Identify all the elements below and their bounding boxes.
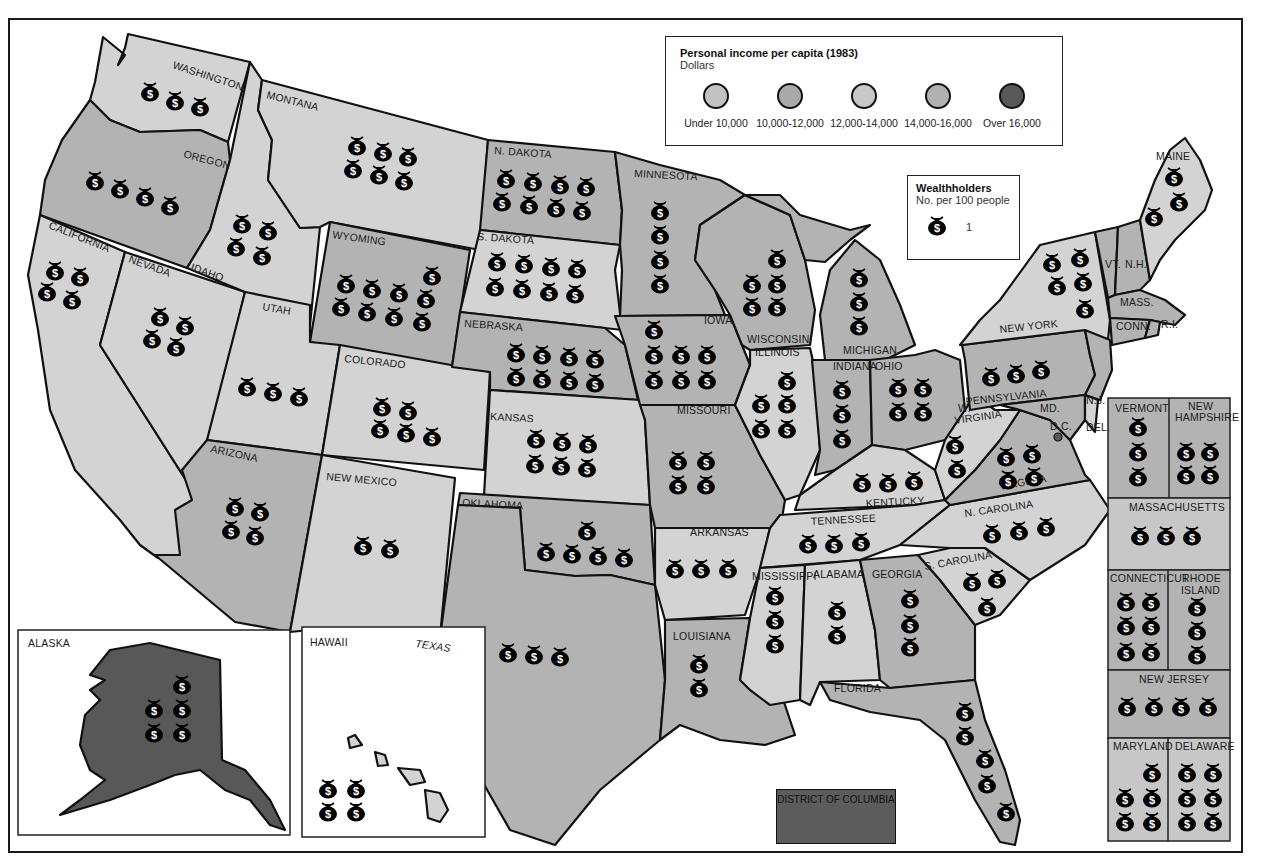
state-michigan[interactable]	[820, 240, 915, 360]
swatch-icon	[851, 83, 877, 109]
label-inset-conn: CONNECTICUT	[1110, 572, 1189, 584]
legend-item-10000-12000: 10,000-12,000	[754, 83, 826, 129]
label-ri: R.I.	[1161, 318, 1178, 330]
label-inset-ri-2: ISLAND	[1181, 584, 1220, 596]
label-michigan: MICHIGAN	[843, 344, 897, 356]
label-inset-nj: NEW JERSEY	[1139, 673, 1209, 685]
label-dc: D.C.	[1050, 420, 1072, 432]
label-mass: MASS.	[1120, 296, 1154, 308]
legend-item-over-16000: Over 16,000	[976, 83, 1048, 129]
label-maine: MAINE	[1156, 150, 1190, 162]
label-mississippi: MISSISSIPPI	[752, 570, 817, 582]
label-inset-md: MARYLAND	[1113, 740, 1173, 752]
label-inset-mass: MASSACHUSETTS	[1129, 501, 1225, 513]
legend-item-12000-14000: 12,000-14,000	[828, 83, 900, 129]
us-map: $	[0, 0, 1268, 868]
income-legend-title: Personal income per capita (1983)	[680, 47, 1048, 59]
swatch-icon	[703, 83, 729, 109]
label-alabama: ALABAMA	[813, 568, 864, 580]
legend-item-14000-16000: 14,000-16,000	[902, 83, 974, 129]
wealth-legend-title: Wealthholders	[916, 182, 1011, 194]
label-ohio: OHIO	[875, 360, 903, 372]
label-nj: N.J.	[1086, 394, 1105, 406]
label-kansas: KANSAS	[490, 410, 534, 424]
label-inset-nh-2: HAMPSHIRE	[1175, 411, 1239, 423]
dc-box-label: DISTRICT OF COLUMBIA	[777, 794, 895, 805]
dc-box: DISTRICT OF COLUMBIA	[776, 789, 896, 844]
label-hawaii: HAWAII	[310, 636, 348, 648]
income-legend: Personal income per capita (1983) Dollar…	[665, 36, 1063, 146]
label-del: DEL.	[1086, 421, 1110, 433]
label-louisiana: LOUISIANA	[673, 630, 731, 642]
wealthholders-legend: Wealthholders No. per 100 people 1	[907, 175, 1020, 260]
dc-marker[interactable]	[1054, 433, 1062, 441]
swatch-icon	[999, 83, 1025, 109]
label-vt: VT.	[1105, 258, 1121, 270]
swatch-icon	[777, 83, 803, 109]
money-bag-icon	[926, 216, 948, 238]
label-alaska: ALASKA	[28, 637, 70, 649]
label-md: MD.	[1040, 402, 1060, 414]
wealth-legend-value: 1	[966, 221, 972, 233]
legend-item-under-10000: Under 10,000	[680, 83, 752, 129]
label-inset-ri-1: RHODE	[1182, 572, 1221, 584]
label-inset-del: DELAWARE	[1175, 740, 1235, 752]
label-inset-vermont: VERMONT	[1115, 402, 1169, 414]
label-florida: FLORIDA	[834, 682, 881, 694]
label-wisconsin: WISCONSIN	[747, 333, 809, 345]
income-legend-unit: Dollars	[680, 59, 1048, 71]
label-missouri: MISSOURI	[677, 404, 731, 416]
label-nh: N.H.	[1125, 258, 1147, 270]
label-georgia: GEORGIA	[872, 568, 922, 580]
label-illinois: ILLINOIS	[755, 346, 800, 358]
label-arkansas: ARKANSAS	[690, 526, 749, 538]
label-indiana: INDIANA	[833, 360, 877, 372]
label-conn: CONN.	[1116, 320, 1151, 332]
wealth-legend-subtitle: No. per 100 people	[916, 194, 1011, 206]
label-iowa: IOWA	[704, 314, 732, 326]
swatch-icon	[925, 83, 951, 109]
